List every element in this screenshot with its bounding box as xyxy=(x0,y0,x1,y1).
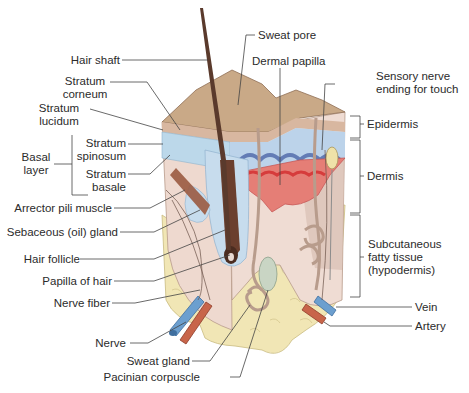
label-sweat-gland: Sweat gland xyxy=(0,355,190,368)
label-stratum-lucidum-line2: lucidum xyxy=(34,115,84,128)
label-arrector-pili: Arrector pili muscle xyxy=(0,202,112,215)
label-stratum-spinosum-line1: Stratum xyxy=(74,137,126,150)
label-sensory-nerve-line1: Sensory nerve xyxy=(376,70,450,83)
label-subcutaneous-line3: (hypodermis) xyxy=(368,264,435,277)
label-nerve-fiber: Nerve fiber xyxy=(0,297,110,310)
label-stratum-spinosum-line2: spinosum xyxy=(74,150,126,163)
label-vein: Vein xyxy=(415,301,437,314)
label-nerve: Nerve xyxy=(0,337,126,350)
label-basal-layer-line2: layer xyxy=(18,164,54,177)
label-papilla-of-hair: Papilla of hair xyxy=(0,275,112,288)
label-sebaceous-gland: Sebaceous (oil) gland xyxy=(0,226,118,239)
label-basal-layer-line1: Basal xyxy=(18,151,54,164)
label-sensory-nerve-line2: ending for touch xyxy=(376,83,458,96)
label-epidermis: Epidermis xyxy=(367,118,418,131)
label-artery: Artery xyxy=(415,320,446,333)
label-subcutaneous-line2: fatty tissue xyxy=(368,251,423,264)
label-hair-shaft: Hair shaft xyxy=(55,54,120,67)
label-dermis: Dermis xyxy=(367,170,403,183)
label-stratum-basale-line2: basale xyxy=(74,181,126,194)
pacinian-corpuscle xyxy=(259,257,277,291)
label-hair-follicle: Hair follicle xyxy=(0,253,80,266)
label-stratum-corneum-line2: corneum xyxy=(60,88,110,101)
label-sweat-pore: Sweat pore xyxy=(258,29,316,42)
label-pacinian-corpuscle: Pacinian corpuscle xyxy=(0,371,200,384)
label-stratum-corneum-line1: Stratum xyxy=(60,75,110,88)
label-subcutaneous-line1: Subcutaneous xyxy=(368,238,442,251)
label-stratum-basale-line1: Stratum xyxy=(74,168,126,181)
meissner-corpuscle xyxy=(326,147,338,169)
label-stratum-lucidum-line1: Stratum xyxy=(34,102,84,115)
label-dermal-papilla: Dermal papilla xyxy=(252,55,326,68)
